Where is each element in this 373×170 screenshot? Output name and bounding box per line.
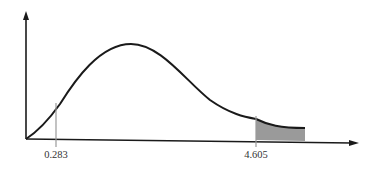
y-axis-arrow-icon [23, 11, 29, 20]
x-axis-arrow-icon [349, 140, 359, 146]
marker-label-right: 4.605 [244, 149, 268, 160]
marker-label-left: 0.283 [44, 149, 68, 160]
density-chart: 0.283 4.605 [0, 0, 373, 170]
